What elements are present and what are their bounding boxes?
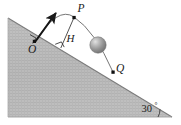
diagram-canvas: O P Q H 30 ° <box>0 0 181 125</box>
velocity-arrow <box>35 14 56 43</box>
ball <box>90 37 106 53</box>
label-angle-degree-symbol: ° <box>155 101 158 110</box>
label-apex: P <box>77 2 85 14</box>
ball-sphere <box>90 37 106 53</box>
label-origin: O <box>28 43 37 55</box>
physics-diagram-figure: O P Q H 30 ° <box>0 0 181 125</box>
label-angle-value: 30 <box>142 103 153 114</box>
point-marker-apex <box>72 16 75 19</box>
label-height: H <box>66 32 76 44</box>
point-marker-landing <box>111 71 114 74</box>
label-landing: Q <box>116 62 125 74</box>
